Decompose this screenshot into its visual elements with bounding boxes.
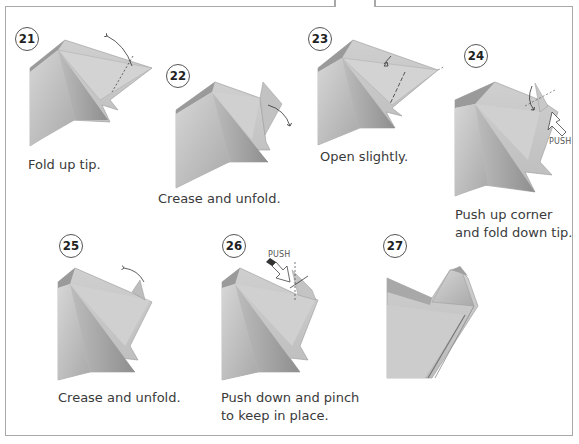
step-caption-line2: to keep in place. [221, 407, 329, 425]
step-27-diagram [0, 0, 579, 400]
